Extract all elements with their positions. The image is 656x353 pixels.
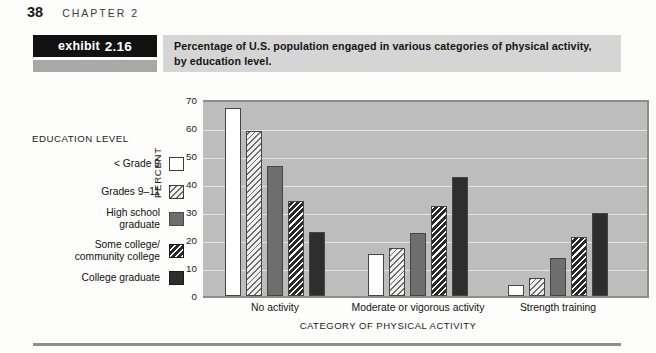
x-axis-line	[203, 296, 649, 298]
bar	[410, 233, 426, 296]
footer-rule	[33, 343, 621, 346]
bar-series-container	[203, 100, 649, 296]
y-axis-tick-label: 50	[181, 151, 197, 162]
bar	[571, 237, 587, 296]
bar	[431, 206, 447, 296]
bar	[389, 248, 405, 296]
bar-chart: 010203040506070 PERCENT No activityModer…	[0, 0, 656, 353]
y-axis-tick-label: 0	[181, 291, 197, 302]
bar	[309, 232, 325, 296]
bar	[246, 131, 262, 296]
bar	[550, 258, 566, 296]
x-axis-category-label: Moderate or vigorous activity	[352, 302, 485, 313]
y-axis-tick-label: 40	[181, 179, 197, 190]
bar	[592, 213, 608, 296]
y-axis-tick-label: 10	[181, 263, 197, 274]
y-axis-label: PERCENT	[152, 147, 163, 198]
bar	[368, 254, 384, 296]
exhibit-page: 38 CHAPTER 2 exhibit 2.16 Percentage of …	[0, 0, 656, 353]
y-axis-tick-label: 30	[181, 207, 197, 218]
bar	[508, 285, 524, 296]
y-axis-tick-label: 70	[181, 95, 197, 106]
y-axis-tick-label: 60	[181, 123, 197, 134]
x-axis-category-label: No activity	[251, 302, 299, 313]
x-axis-category-label: Strength training	[520, 302, 596, 313]
bar	[267, 166, 283, 296]
bar	[225, 108, 241, 296]
bar	[288, 201, 304, 296]
bar	[452, 177, 468, 296]
bar	[529, 278, 545, 296]
y-axis-ticks: 010203040506070	[178, 0, 197, 353]
x-axis-title: CATEGORY OF PHYSICAL ACTIVITY	[0, 320, 656, 331]
x-axis-title-text: CATEGORY OF PHYSICAL ACTIVITY	[180, 320, 477, 331]
y-axis-tick-label: 20	[181, 235, 197, 246]
